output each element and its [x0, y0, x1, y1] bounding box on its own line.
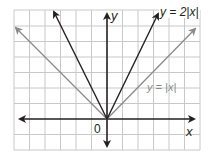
x-axis-label: x	[185, 124, 193, 139]
chart: y = 2|x| y = |x| y x 0	[0, 0, 210, 164]
axes	[20, 14, 194, 146]
label-series-abs-x: y = |x|	[146, 81, 176, 93]
label-series-2abs-x: y = 2|x|	[159, 5, 199, 19]
origin-label: 0	[94, 122, 101, 136]
series-2abs-x	[54, 12, 158, 119]
